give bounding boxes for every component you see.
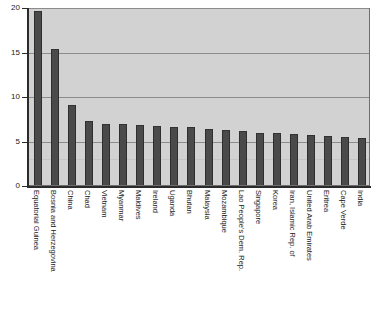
x-tick-label: Bosnia and Herzegovina	[49, 190, 57, 272]
x-tick-label: Eritrea	[322, 190, 330, 212]
x-tick-label: Bhutan	[185, 190, 193, 214]
bar	[290, 134, 298, 185]
bar	[170, 127, 178, 185]
plot-area	[28, 8, 370, 186]
x-tick-label: China	[66, 190, 74, 210]
x-tick-label: Equatorial Guinea	[32, 190, 40, 250]
y-tick	[22, 97, 27, 98]
x-tick-label: Uganda	[168, 190, 176, 216]
y-tick	[22, 53, 27, 54]
bar	[239, 131, 247, 185]
x-axis-line	[27, 186, 371, 188]
bar	[187, 127, 195, 185]
x-tick-label: Lao People's Dem. Rep.	[237, 190, 245, 271]
bar	[273, 133, 281, 185]
x-tick-label: Mozambique	[220, 190, 228, 233]
x-tick-label: Iran, Islamic Rep. of	[288, 190, 296, 257]
bar	[68, 105, 76, 185]
x-tick-label: Cape Verde	[339, 190, 347, 230]
x-tick-label: United Arab Emirates	[305, 190, 313, 261]
y-tick	[22, 142, 27, 143]
y-tick-label: 0	[0, 182, 20, 190]
bar	[136, 125, 144, 185]
x-tick-label: Vietnam	[100, 190, 108, 217]
bar	[51, 49, 59, 185]
bar	[324, 136, 332, 185]
bar	[358, 138, 366, 185]
y-axis-tick-labels: 05101520	[0, 0, 22, 310]
y-tick	[22, 8, 27, 9]
x-tick-label: Malaysia	[203, 190, 211, 220]
bar	[341, 137, 349, 185]
y-tick-label: 10	[0, 93, 20, 101]
bar	[85, 121, 93, 185]
bar-series	[29, 9, 369, 185]
bar	[222, 130, 230, 185]
y-axis-line	[27, 8, 29, 187]
bar	[205, 129, 213, 185]
bar	[307, 135, 315, 185]
y-tick-label: 5	[0, 138, 20, 146]
x-tick-label: Myanmar	[117, 190, 125, 221]
x-axis-tick-labels: Equatorial GuineaBosnia and HerzegovinaC…	[28, 190, 370, 308]
x-tick-label: Chad	[83, 190, 91, 208]
bar	[256, 133, 264, 186]
x-tick-label: Singapore	[254, 190, 262, 224]
y-tick-label: 20	[0, 4, 20, 12]
bar-chart: 05101520 Equatorial GuineaBosnia and Her…	[0, 0, 378, 310]
x-tick-label: India	[356, 190, 364, 206]
y-tick-label: 15	[0, 49, 20, 57]
x-tick-label: Korea	[271, 190, 279, 210]
x-tick-label: Maldives	[134, 190, 142, 220]
bar	[34, 11, 42, 185]
bar	[119, 124, 127, 185]
bar	[153, 126, 161, 185]
x-tick-label: Ireland	[151, 190, 159, 213]
bar	[102, 124, 110, 185]
